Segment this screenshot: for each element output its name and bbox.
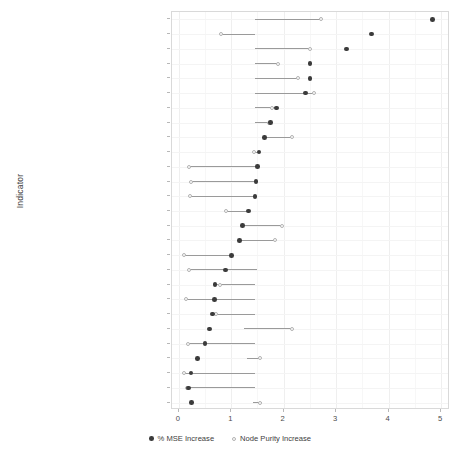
x-axis-tick-label: 4 — [378, 414, 398, 423]
point-mse-increase[interactable] — [268, 120, 273, 125]
y-axis-tick-mark — [167, 387, 170, 388]
point-mse-increase[interactable] — [369, 32, 374, 37]
y-axis-title: Indicator — [15, 143, 25, 239]
point-node-purity-increase[interactable] — [252, 150, 256, 154]
y-axis-tick-mark — [167, 136, 170, 137]
x-axis-tick-mark — [230, 409, 231, 412]
plot-panel — [171, 11, 449, 409]
point-node-purity-increase[interactable] — [188, 194, 192, 198]
point-mse-increase[interactable] — [303, 91, 308, 96]
point-node-purity-increase[interactable] — [224, 209, 228, 213]
point-mse-increase[interactable] — [253, 194, 258, 199]
point-mse-increase[interactable] — [274, 106, 279, 111]
data-row — [172, 233, 448, 247]
point-mse-increase[interactable] — [246, 209, 251, 214]
x-axis-tick-mark — [388, 409, 389, 412]
point-node-purity-increase[interactable] — [182, 253, 186, 257]
y-axis-tick-mark — [167, 33, 170, 34]
y-axis-tick-mark — [167, 343, 170, 344]
range-segment — [226, 211, 249, 212]
legend-item[interactable]: % MSE Increase — [149, 434, 214, 443]
point-mse-increase[interactable] — [254, 179, 259, 184]
data-row — [172, 42, 448, 56]
point-node-purity-increase[interactable] — [276, 62, 280, 66]
x-axis-tick-label: 5 — [430, 414, 450, 423]
x-axis-tick-mark — [440, 409, 441, 412]
y-axis-tick-mark — [167, 181, 170, 182]
point-node-purity-increase[interactable] — [186, 342, 190, 346]
point-node-purity-increase[interactable] — [290, 135, 294, 139]
point-mse-increase[interactable] — [255, 164, 260, 169]
point-node-purity-increase[interactable] — [218, 283, 222, 287]
range-segment — [212, 314, 254, 315]
point-node-purity-increase[interactable] — [187, 165, 191, 169]
point-mse-increase[interactable] — [212, 297, 217, 302]
legend-item[interactable]: Node Purity Increase — [232, 434, 311, 443]
y-axis-tick-mark — [167, 269, 170, 270]
point-mse-increase[interactable] — [186, 386, 191, 391]
point-mse-increase[interactable] — [229, 253, 234, 258]
point-mse-increase[interactable] — [308, 61, 313, 66]
point-node-purity-increase[interactable] — [187, 268, 191, 272]
y-axis-tick-mark — [167, 284, 170, 285]
point-node-purity-increase[interactable] — [189, 180, 193, 184]
y-axis-tick-mark — [167, 92, 170, 93]
point-node-purity-increase[interactable] — [184, 297, 188, 301]
point-node-purity-increase[interactable] — [308, 47, 312, 51]
y-axis-tick-mark — [167, 107, 170, 108]
y-axis-tick-mark — [167, 225, 170, 226]
data-row — [172, 145, 448, 159]
point-mse-increase[interactable] — [430, 17, 435, 22]
point-node-purity-increase[interactable] — [258, 356, 262, 360]
point-node-purity-increase[interactable] — [273, 238, 277, 242]
data-row — [172, 307, 448, 321]
data-row — [172, 57, 448, 71]
point-mse-increase[interactable] — [223, 268, 228, 273]
point-mse-increase[interactable] — [195, 356, 200, 361]
point-mse-increase[interactable] — [240, 223, 245, 228]
y-axis-tick-mark — [167, 195, 170, 196]
legend-item-label: Node Purity Increase — [240, 434, 311, 443]
point-mse-increase[interactable] — [257, 150, 262, 155]
point-node-purity-increase[interactable] — [290, 327, 294, 331]
x-axis-tick-mark — [335, 409, 336, 412]
point-mse-increase[interactable] — [213, 282, 218, 287]
chart-root: Indicator Element sizeRare OSM tagsContr… — [0, 0, 460, 468]
point-mse-increase[interactable] — [189, 400, 194, 405]
point-mse-increase[interactable] — [203, 341, 208, 346]
point-node-purity-increase[interactable] — [219, 32, 223, 36]
point-mse-increase[interactable] — [207, 327, 212, 332]
y-axis-tick-mark — [167, 254, 170, 255]
y-axis-tick-mark — [167, 328, 170, 329]
data-row — [172, 116, 448, 130]
y-axis-tick-mark — [167, 18, 170, 19]
point-node-purity-increase[interactable] — [280, 224, 284, 228]
range-segment — [221, 34, 255, 35]
y-axis-tick-mark — [167, 77, 170, 78]
point-node-purity-increase[interactable] — [296, 76, 300, 80]
y-axis-tick-mark — [167, 402, 170, 403]
point-mse-increase[interactable] — [237, 238, 242, 243]
point-mse-increase[interactable] — [262, 135, 267, 140]
y-axis-tick-mark — [167, 357, 170, 358]
range-segment — [255, 48, 311, 49]
point-mse-increase[interactable] — [308, 76, 313, 81]
data-row — [172, 27, 448, 41]
data-row — [172, 101, 448, 115]
range-segment — [255, 78, 299, 79]
x-axis-tick-mark — [178, 409, 179, 412]
data-row — [172, 219, 448, 233]
range-segment — [264, 137, 291, 138]
x-axis-tick-label: 1 — [220, 414, 240, 423]
x-axis-tick-label: 0 — [168, 414, 188, 423]
legend-marker-mse-icon — [149, 436, 154, 441]
range-segment — [244, 328, 291, 329]
range-segment — [190, 196, 255, 197]
point-mse-increase[interactable] — [344, 47, 349, 52]
point-mse-increase[interactable] — [189, 371, 194, 376]
point-node-purity-increase[interactable] — [258, 401, 262, 405]
point-node-purity-increase[interactable] — [319, 17, 323, 21]
point-node-purity-increase[interactable] — [312, 91, 316, 95]
point-mse-increase[interactable] — [210, 312, 215, 317]
point-node-purity-increase[interactable] — [182, 371, 186, 375]
